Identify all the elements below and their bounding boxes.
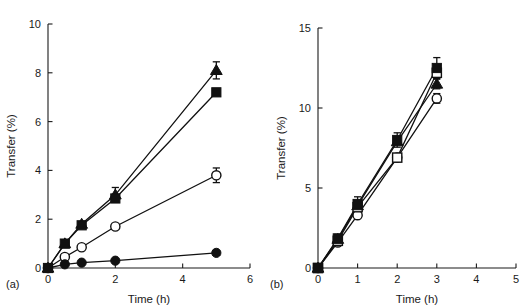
y-tick-label: 0 xyxy=(305,262,311,274)
y-tick-label: 4 xyxy=(35,164,41,176)
y-tick-label: 2 xyxy=(35,213,41,225)
data-point-filled-square xyxy=(77,221,86,230)
data-point-open-circle xyxy=(77,243,86,252)
data-point-filled-square xyxy=(111,194,120,203)
data-point-filled-square xyxy=(313,263,322,272)
axes-group: 051015012345 xyxy=(299,22,519,285)
x-tick-label: 4 xyxy=(180,273,186,285)
y-tick-label: 6 xyxy=(35,116,41,128)
chart-panel-b: 051015012345Time (h)Transfer (%)(b) xyxy=(264,0,528,306)
chart-panel-a: 02468100246Time (h)Transfer (%)(a) xyxy=(0,0,264,306)
data-point-open-circle xyxy=(212,171,221,180)
panel-label: (b) xyxy=(270,278,283,290)
x-tick-label: 4 xyxy=(473,273,479,285)
y-axis-title: Transfer (%) xyxy=(5,114,17,178)
data-point-filled-square xyxy=(432,63,441,72)
y-tick-label: 10 xyxy=(299,102,311,114)
data-point-filled-triangle xyxy=(431,78,443,88)
y-tick-label: 15 xyxy=(299,22,311,34)
y-axis-title: Transfer (%) xyxy=(275,116,287,180)
x-tick-label: 6 xyxy=(247,273,253,285)
x-axis-title: Time (h) xyxy=(396,293,439,305)
data-point-filled-circle xyxy=(60,260,69,269)
x-tick-label: 0 xyxy=(315,273,321,285)
data-point-filled-square xyxy=(393,135,402,144)
error-bars-group xyxy=(334,58,440,243)
x-tick-label: 2 xyxy=(394,273,400,285)
data-point-filled-square xyxy=(43,263,52,272)
figure-container: 02468100246Time (h)Transfer (%)(a) 05101… xyxy=(0,0,528,306)
series-line-filled-triangle xyxy=(48,70,216,268)
markers-group xyxy=(312,63,443,272)
y-tick-label: 0 xyxy=(35,262,41,274)
y-tick-label: 5 xyxy=(305,182,311,194)
x-tick-label: 1 xyxy=(355,273,361,285)
data-point-filled-circle xyxy=(212,248,221,257)
series-line-open-circle xyxy=(48,175,216,268)
data-point-open-circle xyxy=(432,94,441,103)
data-point-filled-circle xyxy=(77,258,86,267)
series-lines-group xyxy=(48,70,216,268)
panel-label: (a) xyxy=(6,278,19,290)
data-point-open-circle xyxy=(111,222,120,231)
x-tick-label: 5 xyxy=(513,273,519,285)
data-point-filled-circle xyxy=(111,256,120,265)
series-line-filled-circle xyxy=(48,253,216,268)
data-point-filled-square xyxy=(60,239,69,248)
x-tick-label: 2 xyxy=(112,273,118,285)
data-point-open-square xyxy=(393,153,402,162)
series-line-filled-square xyxy=(48,92,216,268)
x-axis-title: Time (h) xyxy=(128,293,171,305)
data-point-filled-triangle xyxy=(210,65,222,75)
x-tick-label: 0 xyxy=(45,273,51,285)
data-point-filled-square xyxy=(212,88,221,97)
x-tick-label: 3 xyxy=(434,273,440,285)
data-point-filled-square xyxy=(353,199,362,208)
data-point-filled-square xyxy=(333,234,342,243)
y-tick-label: 8 xyxy=(35,67,41,79)
y-tick-label: 10 xyxy=(29,18,41,30)
